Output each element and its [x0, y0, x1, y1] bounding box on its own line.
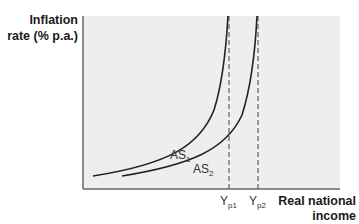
x-axis-label: Real national income [274, 194, 356, 224]
x-axis-label-line1: Real national [274, 194, 356, 209]
yp1-tick-label: Yp1 [220, 194, 237, 210]
as1-label: AS1 [170, 148, 190, 164]
diagram-svg [0, 0, 359, 224]
yp2-tick-label: Yp2 [249, 194, 266, 210]
x-axis-label-line2: income [274, 209, 356, 224]
as2-label: AS2 [193, 162, 213, 178]
